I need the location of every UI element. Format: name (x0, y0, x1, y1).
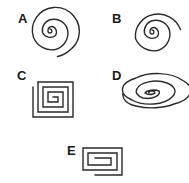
spiral-e-icon (83, 148, 122, 175)
spiral-d-icon (122, 74, 189, 108)
spiral-b-icon (135, 14, 180, 51)
spiral-c-icon (33, 82, 73, 117)
figures-canvas (0, 0, 189, 183)
spiral-a-icon (32, 7, 79, 56)
